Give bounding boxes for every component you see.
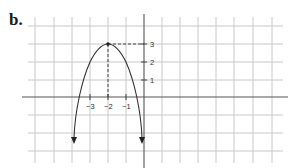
y-tick-label: 1: [150, 76, 154, 85]
axes: [22, 14, 288, 168]
tick-marks: [90, 44, 147, 100]
parabola-graph: −3 −2 −1 3 2 1: [0, 0, 301, 168]
y-tick-label: 3: [150, 40, 154, 49]
x-tick-label: −3: [86, 102, 95, 111]
vertex-point: [106, 42, 110, 46]
x-tick-label: −1: [122, 102, 131, 111]
x-tick-label: −2: [104, 102, 113, 111]
grid: [28, 17, 283, 163]
y-tick-label: 2: [150, 58, 154, 67]
